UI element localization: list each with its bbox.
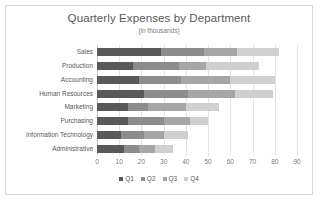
bar-segment-q1[interactable] xyxy=(97,131,121,139)
x-tick-label: 50 xyxy=(204,158,211,165)
bar-segment-q3[interactable] xyxy=(144,131,164,139)
bar-segment-q1[interactable] xyxy=(97,117,128,125)
x-tick-label: 80 xyxy=(271,158,278,165)
bar-segment-q4[interactable] xyxy=(237,48,279,56)
bar-row[interactable] xyxy=(97,76,275,84)
bar-segment-q4[interactable] xyxy=(230,76,274,84)
bar-segment-q2[interactable] xyxy=(139,76,181,84)
chart-subtitle: (in thousands) xyxy=(6,27,312,34)
legend-item-q4[interactable]: Q4 xyxy=(184,175,199,182)
chart-container: Quarterly Expenses by Department (in tho… xyxy=(5,5,313,195)
x-tick-label: 30 xyxy=(160,158,167,165)
category-label: Accounting xyxy=(61,77,93,84)
bar-segment-q2[interactable] xyxy=(124,145,140,153)
bar-segment-q1[interactable] xyxy=(97,76,139,84)
bar-segment-q4[interactable] xyxy=(235,90,273,98)
bar-segment-q2[interactable] xyxy=(133,62,180,70)
bar-segment-q3[interactable] xyxy=(179,62,206,70)
bar-row[interactable] xyxy=(97,48,279,56)
y-axis-category-labels: SalesProductionAccountingHuman Resources… xyxy=(10,45,95,156)
chart-legend: Q1Q2Q3Q4 xyxy=(6,175,312,182)
bar-row[interactable] xyxy=(97,90,273,98)
x-tick-label: 90 xyxy=(293,158,300,165)
bar-segment-q3[interactable] xyxy=(204,48,237,56)
bar-segment-q2[interactable] xyxy=(128,103,148,111)
bar-row[interactable] xyxy=(97,103,219,111)
bar-segment-q3[interactable] xyxy=(188,90,235,98)
x-tick-label: 10 xyxy=(116,158,123,165)
bar-segment-q1[interactable] xyxy=(97,90,144,98)
bar-row[interactable] xyxy=(97,117,208,125)
bar-segment-q2[interactable] xyxy=(144,90,188,98)
bar-segment-q1[interactable] xyxy=(97,48,161,56)
x-axis-tick-labels: 0102030405060708090 xyxy=(97,158,297,170)
x-tick-label: 70 xyxy=(249,158,256,165)
bar-row[interactable] xyxy=(97,145,173,153)
legend-swatch-icon xyxy=(141,177,145,181)
bar-segment-q2[interactable] xyxy=(128,117,164,125)
gridline-90 xyxy=(297,45,298,156)
category-label: Marketing xyxy=(64,104,93,111)
bar-segment-q3[interactable] xyxy=(148,103,186,111)
x-tick-label: 0 xyxy=(95,158,99,165)
legend-label: Q2 xyxy=(147,175,156,182)
bar-segment-q1[interactable] xyxy=(97,145,124,153)
x-tick-label: 20 xyxy=(138,158,145,165)
bar-segment-q4[interactable] xyxy=(155,145,173,153)
legend-swatch-icon xyxy=(184,177,188,181)
category-label: Sales xyxy=(77,49,93,56)
legend-label: Q3 xyxy=(169,175,178,182)
bar-segment-q4[interactable] xyxy=(186,103,219,111)
legend-item-q2[interactable]: Q2 xyxy=(141,175,156,182)
category-label: Information Technology xyxy=(26,132,93,139)
bar-row[interactable] xyxy=(97,62,259,70)
x-tick-label: 40 xyxy=(182,158,189,165)
category-label: Administrative xyxy=(52,146,93,153)
legend-swatch-icon xyxy=(119,177,123,181)
legend-item-q3[interactable]: Q3 xyxy=(163,175,178,182)
bar-segment-q3[interactable] xyxy=(181,76,230,84)
bar-segment-q2[interactable] xyxy=(161,48,203,56)
x-tick-label: 60 xyxy=(227,158,234,165)
legend-swatch-icon xyxy=(163,177,167,181)
legend-label: Q4 xyxy=(190,175,199,182)
bar-segment-q2[interactable] xyxy=(121,131,143,139)
gridline-80 xyxy=(275,45,276,156)
bar-row[interactable] xyxy=(97,131,188,139)
legend-item-q1[interactable]: Q1 xyxy=(119,175,134,182)
category-label: Production xyxy=(62,63,93,70)
bar-segment-q3[interactable] xyxy=(164,117,191,125)
bar-segment-q3[interactable] xyxy=(139,145,155,153)
legend-label: Q1 xyxy=(125,175,134,182)
bar-segment-q4[interactable] xyxy=(164,131,188,139)
plot-area xyxy=(97,45,297,156)
category-label: Purchasing xyxy=(60,118,93,125)
bar-segment-q1[interactable] xyxy=(97,62,133,70)
bar-segment-q1[interactable] xyxy=(97,103,128,111)
chart-title: Quarterly Expenses by Department xyxy=(6,12,312,24)
category-label: Human Resources xyxy=(39,91,93,98)
bar-segment-q4[interactable] xyxy=(206,62,259,70)
bar-segment-q4[interactable] xyxy=(190,117,208,125)
